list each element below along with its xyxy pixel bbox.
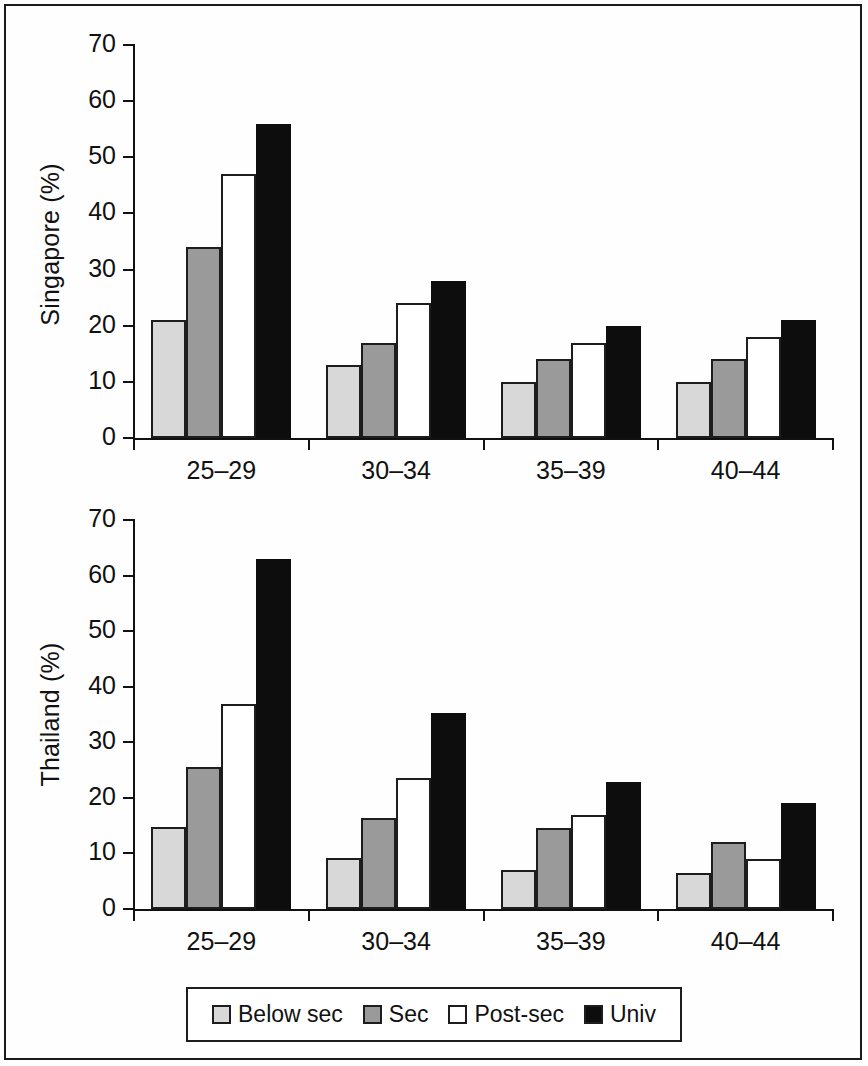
- y-tick: [123, 100, 134, 102]
- bar: [151, 827, 186, 909]
- legend-label: Sec: [389, 1001, 429, 1028]
- legend-entry: Below sec: [212, 1001, 343, 1028]
- y-tick-label: 30: [44, 254, 116, 283]
- y-tick-label: 60: [44, 560, 116, 589]
- y-tick: [123, 156, 134, 158]
- legend-entry: Sec: [363, 1001, 429, 1028]
- x-category-label: 25–29: [131, 927, 311, 956]
- bar: [501, 382, 536, 438]
- y-tick-label: 40: [44, 197, 116, 226]
- bar: [186, 767, 221, 909]
- y-tick-label: 20: [44, 310, 116, 339]
- y-tick-label: 50: [44, 615, 116, 644]
- bar: [221, 174, 256, 438]
- figure-root: Singapore (%) 010203040506070 25–2930–34…: [0, 0, 868, 1066]
- x-category-label: 35–39: [481, 927, 661, 956]
- x-tick: [133, 438, 135, 450]
- x-tick: [483, 438, 485, 450]
- bar: [221, 704, 256, 909]
- bar: [186, 247, 221, 438]
- bar: [676, 873, 711, 909]
- y-tick-label: 50: [44, 141, 116, 170]
- bar: [746, 859, 781, 909]
- bar: [501, 870, 536, 909]
- y-tick: [123, 212, 134, 214]
- bar: [606, 326, 641, 438]
- bar: [361, 818, 396, 909]
- legend-label: Post-sec: [474, 1001, 563, 1028]
- legend-swatch-icon: [212, 1005, 231, 1024]
- y-tick: [123, 575, 134, 577]
- bar: [151, 320, 186, 438]
- x-category-label: 30–34: [306, 927, 486, 956]
- chart-legend: Below secSecPost-secUniv: [186, 987, 682, 1042]
- y-tick: [123, 852, 134, 854]
- legend-swatch-icon: [584, 1005, 603, 1024]
- bar: [571, 815, 606, 909]
- bar: [676, 382, 711, 438]
- bar: [396, 303, 431, 438]
- bar: [326, 858, 361, 909]
- bar: [746, 337, 781, 438]
- y-tick-label: 70: [44, 504, 116, 533]
- y-tick: [123, 381, 134, 383]
- y-tick: [123, 686, 134, 688]
- y-tick-label: 30: [44, 726, 116, 755]
- y-tick: [123, 519, 134, 521]
- y-tick-label: 40: [44, 671, 116, 700]
- x-tick: [133, 909, 135, 921]
- bar: [781, 803, 816, 909]
- y-tick-label: 0: [44, 422, 116, 451]
- legend-swatch-icon: [363, 1005, 382, 1024]
- bar: [711, 842, 746, 909]
- y-tick: [123, 630, 134, 632]
- bar: [431, 713, 466, 909]
- bar: [396, 778, 431, 909]
- legend-label: Below sec: [238, 1001, 343, 1028]
- y-tick: [123, 741, 134, 743]
- bar: [711, 359, 746, 438]
- y-tick-label: 10: [44, 837, 116, 866]
- legend-entry: Univ: [584, 1001, 656, 1028]
- y-tick-label: 0: [44, 893, 116, 922]
- x-tick: [657, 438, 659, 450]
- y-tick: [123, 797, 134, 799]
- bar: [571, 343, 606, 438]
- x-tick: [308, 909, 310, 921]
- x-tick: [832, 909, 834, 921]
- x-category-label: 40–44: [656, 927, 836, 956]
- bar: [256, 559, 291, 909]
- y-tick-label: 10: [44, 366, 116, 395]
- x-tick: [308, 438, 310, 450]
- bar: [781, 320, 816, 438]
- bar: [606, 782, 641, 909]
- chart-panel-thailand: Thailand (%) 010203040506070 25–2930–343…: [0, 470, 868, 970]
- bar: [361, 343, 396, 438]
- bar: [536, 828, 571, 909]
- x-tick: [832, 438, 834, 450]
- y-tick: [123, 269, 134, 271]
- y-tick: [123, 325, 134, 327]
- bar: [326, 365, 361, 438]
- legend-swatch-icon: [448, 1005, 467, 1024]
- y-tick-label: 20: [44, 782, 116, 811]
- y-tick-label: 70: [44, 29, 116, 58]
- bar: [431, 281, 466, 438]
- legend-label: Univ: [610, 1001, 656, 1028]
- x-tick: [657, 909, 659, 921]
- legend-entry: Post-sec: [448, 1001, 563, 1028]
- y-tick-label: 60: [44, 85, 116, 114]
- y-tick: [123, 44, 134, 46]
- bar: [256, 124, 291, 438]
- chart-panel-singapore: Singapore (%) 010203040506070 25–2930–34…: [0, 0, 868, 490]
- bar: [536, 359, 571, 438]
- x-tick: [483, 909, 485, 921]
